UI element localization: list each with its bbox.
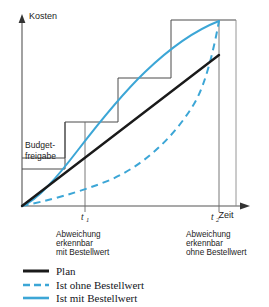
t1-tick-letter: t — [81, 212, 84, 222]
legend-item-plan: Plan — [23, 265, 76, 277]
legend-label-ist-mit-bestellwert: Ist mit Bestellwert — [56, 292, 137, 304]
chart-legend: Plan Ist ohne Bestellwert Ist mit Bestel… — [23, 265, 144, 304]
x-axis-label: Zeit — [218, 210, 234, 220]
legend-label-plan: Plan — [56, 265, 76, 277]
legend-item-ist-mit-bestellwert: Ist mit Bestellwert — [23, 292, 137, 304]
legend-label-ist-ohne-bestellwert: Ist ohne Bestellwert — [56, 279, 144, 291]
annotation-right-line3: ohne Bestellwert — [186, 248, 247, 257]
t1-tick-subscript: 1 — [86, 216, 89, 223]
y-axis-label: Kosten — [29, 11, 57, 21]
annotation-right-line2: erkennbar — [186, 239, 223, 248]
annotation-right-line1: Abweichung — [186, 230, 231, 239]
annotation-left-line3: mit Bestellwert — [56, 248, 110, 257]
series-ist-ohne-bestellwert — [22, 21, 219, 206]
annotation-right: Abweichung erkennbar ohne Bestellwert — [186, 230, 247, 257]
legend-item-ist-ohne-bestellwert: Ist ohne Bestellwert — [23, 279, 144, 291]
annotation-left-line1: Abweichung — [56, 230, 101, 239]
annotation-left: Abweichung erkennbar mit Bestellwert — [56, 230, 110, 257]
annotation-left-line2: erkennbar — [56, 239, 93, 248]
t2-tick-letter: t — [211, 212, 214, 222]
t1-tick-label: t 1 — [81, 212, 89, 223]
chart-canvas: Kosten Zeit Budget- freigabe t 1 t 2 Abw… — [0, 0, 269, 307]
series-ist-mit-bestellwert — [22, 21, 219, 206]
budget-label-line2: freigabe — [25, 151, 56, 161]
budget-label-line1: Budget- — [25, 140, 55, 150]
chart-figure: Kosten Zeit Budget- freigabe t 1 t 2 Abw… — [0, 0, 269, 307]
x-axis-arrow-icon — [240, 203, 250, 210]
y-axis-arrow-icon — [19, 14, 26, 23]
